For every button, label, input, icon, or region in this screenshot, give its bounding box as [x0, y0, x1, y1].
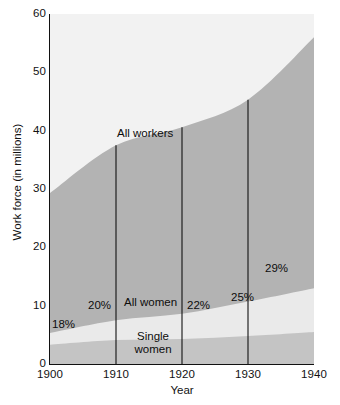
series-label-all-workers: All workers — [117, 127, 173, 140]
y-axis-title: Work force (in millions) — [11, 82, 23, 282]
y-tick-60: 60 — [2, 8, 46, 19]
x-tick-1900: 1900 — [27, 368, 73, 380]
pct-label-1920: 22% — [187, 299, 210, 312]
pct-label-1930: 25% — [231, 291, 254, 304]
y-tick-10: 10 — [2, 300, 46, 311]
pct-label-1910: 20% — [88, 299, 111, 312]
x-tick-1930: 1930 — [225, 368, 271, 380]
x-tick-1940: 1940 — [291, 368, 337, 380]
y-tick-30: 30 — [2, 183, 46, 194]
y-axis-line — [49, 14, 50, 365]
y-tick-50: 50 — [2, 66, 46, 77]
x-axis-line — [50, 364, 314, 365]
x-tick-1920: 1920 — [159, 368, 205, 380]
series-label-single-women-line1: Single — [122, 330, 184, 343]
series-label-single-women-line2: women — [122, 343, 184, 356]
pct-label-1940: 29% — [265, 262, 288, 275]
series-label-all-women: All women — [124, 296, 177, 309]
y-tick-20: 20 — [2, 241, 46, 252]
pct-label-1900: 18% — [52, 318, 75, 331]
x-tick-1910: 1910 — [93, 368, 139, 380]
y-tick-40: 40 — [2, 125, 46, 136]
y-axis-tick-labels: 60 50 40 30 20 10 0 — [0, 0, 46, 405]
x-axis-title-text: Year — [146, 384, 193, 396]
work-force-area-chart: 60 50 40 30 20 10 0 1900 1910 1920 1930 … — [0, 0, 340, 405]
x-axis-title: Year — [0, 384, 340, 396]
